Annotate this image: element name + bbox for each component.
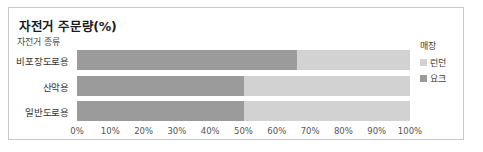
- legend-item-label: 요크: [430, 72, 446, 85]
- legend-item-label: 런던: [430, 56, 446, 69]
- category-label-0: 비포장도로용: [0, 54, 69, 68]
- bar-segment-york: [77, 50, 297, 70]
- legend-item-york: 요크: [420, 72, 464, 85]
- axis-tick-label: 0%: [70, 126, 84, 136]
- legend-swatch-icon: [420, 75, 427, 82]
- axis-tick-label: 70%: [301, 126, 320, 136]
- axis-tick-label: 50%: [234, 126, 253, 136]
- category-axis-title: 자전거 종류: [17, 35, 60, 48]
- axis-tick-label: 20%: [134, 126, 153, 136]
- bar-segment-london: [297, 50, 410, 70]
- axis-tick-label: 40%: [201, 126, 220, 136]
- legend-swatch-icon: [420, 59, 427, 66]
- axis-tick-label: 60%: [267, 126, 286, 136]
- legend: 매장 런던 요크: [420, 39, 464, 88]
- chart-card: 자전거 주문량(%) 자전거 종류 비포장도로용 산악용 일반도로용 0%10%…: [8, 7, 464, 140]
- bar-segment-york: [77, 76, 244, 96]
- bar-row: [77, 101, 410, 121]
- legend-item-london: 런던: [420, 56, 464, 69]
- axis-tick-label: 80%: [334, 126, 353, 136]
- category-label-2: 일반도로용: [0, 105, 69, 119]
- bar-segment-london: [244, 76, 411, 96]
- axis-tick-label: 30%: [167, 126, 186, 136]
- category-label-1: 산악용: [0, 80, 69, 94]
- bar-row: [77, 76, 410, 96]
- legend-title: 매장: [420, 39, 464, 52]
- bar-row: [77, 50, 410, 70]
- plot-area: 비포장도로용 산악용 일반도로용: [77, 49, 410, 123]
- value-axis: 0%10%20%30%40%50%60%70%80%90%100%: [77, 126, 410, 140]
- bar-segment-london: [244, 101, 411, 121]
- chart-title: 자전거 주문량(%): [19, 16, 116, 35]
- bar-segment-york: [77, 101, 244, 121]
- axis-tick-label: 100%: [398, 126, 422, 136]
- axis-tick-label: 10%: [101, 126, 120, 136]
- axis-tick-label: 90%: [367, 126, 386, 136]
